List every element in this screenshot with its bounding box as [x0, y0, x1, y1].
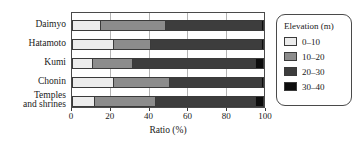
category-label-line: Kumi: [0, 57, 66, 67]
category-label-line: Daimyo: [0, 19, 66, 29]
category-label-line: Chonin: [0, 76, 66, 86]
plot-area: [71, 12, 265, 108]
bar-segment: [95, 96, 156, 107]
legend-label: 20–30: [302, 67, 325, 77]
legend: Elevation (m) 0–1010–2020–3030–40: [276, 14, 352, 106]
legend-item: 0–10: [284, 34, 346, 49]
legend-item: 20–30: [284, 64, 346, 79]
bar-row: [72, 20, 264, 31]
category-label: Daimyo: [0, 19, 66, 29]
bar-segment: [151, 39, 262, 50]
x-axis-tick-labels: 020406080100: [71, 111, 265, 123]
y-axis-category-labels: DaimyoHatamotoKumiChoninTemplesand shrin…: [0, 12, 69, 108]
bar-segment: [156, 96, 256, 107]
bar-segment: [93, 58, 133, 69]
legend-label: 30–40: [302, 82, 325, 92]
legend-label: 0–10: [302, 37, 320, 47]
bar-segment: [72, 58, 93, 69]
x-axis-tick-label: 80: [222, 111, 231, 122]
category-label-line: Hatamoto: [0, 38, 66, 48]
bar-segment: [72, 77, 114, 88]
bar-segment: [72, 96, 95, 107]
bar-row: [72, 77, 264, 88]
bar-segment: [133, 58, 256, 69]
stacked-bar-chart-figure: DaimyoHatamotoKumiChoninTemplesand shrin…: [0, 0, 357, 144]
legend-label: 10–20: [302, 52, 325, 62]
category-label: Kumi: [0, 57, 66, 67]
category-label-line: and shrines: [0, 100, 66, 110]
legend-swatch: [284, 82, 297, 91]
bar-segment: [101, 20, 166, 31]
bar-segment: [114, 39, 150, 50]
bar-segment: [72, 39, 114, 50]
bar-segment: [262, 20, 264, 31]
bar-row: [72, 96, 264, 107]
bar-segment: [256, 96, 264, 107]
bar-segment: [262, 39, 264, 50]
legend-items: 0–1010–2020–3030–40: [284, 34, 346, 94]
legend-title: Elevation (m): [284, 20, 346, 32]
x-axis-tick-label: 0: [69, 111, 74, 122]
x-axis-tick-label: 40: [144, 111, 153, 122]
bar-segment: [262, 77, 264, 88]
legend-swatch: [284, 37, 297, 46]
category-label: Templesand shrines: [0, 91, 66, 110]
x-axis-tick-label: 100: [258, 111, 272, 122]
bar-row: [72, 39, 264, 50]
legend-item: 10–20: [284, 49, 346, 64]
bar-segment: [166, 20, 262, 31]
legend-swatch: [284, 52, 297, 61]
bar-segment: [170, 77, 262, 88]
category-label: Chonin: [0, 76, 66, 86]
bar-segment: [256, 58, 264, 69]
x-axis-tick-label: 60: [183, 111, 192, 122]
bar-segment: [114, 77, 170, 88]
x-axis-title: Ratio (%): [71, 124, 265, 136]
x-axis-tick-label: 20: [105, 111, 114, 122]
legend-item: 30–40: [284, 79, 346, 94]
bar-series-container: [72, 13, 264, 107]
bar-segment: [72, 20, 101, 31]
legend-swatch: [284, 67, 297, 76]
category-label: Hatamoto: [0, 38, 66, 48]
bar-row: [72, 58, 264, 69]
